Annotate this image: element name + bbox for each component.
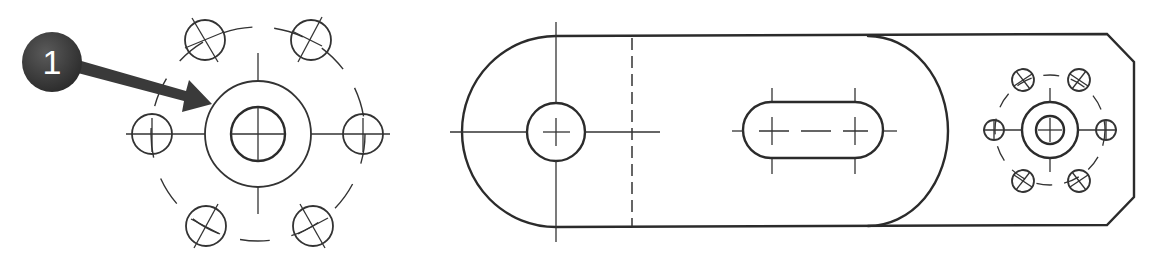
hole-bottom-left xyxy=(186,204,226,248)
callout-number: 1 xyxy=(43,43,62,81)
plate-outline xyxy=(462,34,1134,227)
callout-arrow xyxy=(74,60,212,112)
hole-top-right xyxy=(291,17,331,62)
hole-top-left xyxy=(185,18,225,62)
boss-arc xyxy=(868,36,948,226)
callout-marker: 1 xyxy=(22,32,212,112)
small-hole-top-right xyxy=(1068,69,1090,91)
right-view xyxy=(450,22,1134,242)
hole-bottom-right xyxy=(293,204,333,248)
slot-outline xyxy=(743,102,883,158)
small-hole-top-left xyxy=(1012,69,1034,91)
left-view xyxy=(126,17,390,248)
small-flange xyxy=(983,69,1117,192)
drawing-canvas: 1 xyxy=(0,0,1154,253)
small-hole-bottom-left xyxy=(1012,170,1034,192)
